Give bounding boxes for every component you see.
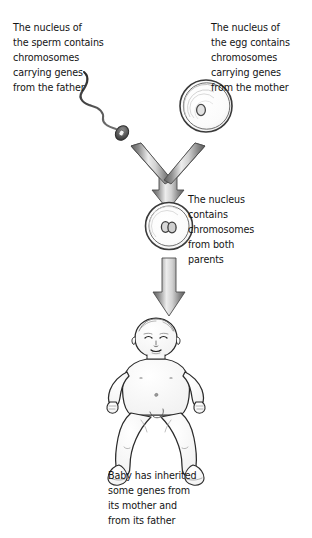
egg-caption: The nucleus of the egg contains chromoso… [211,20,311,95]
fertilized-cell-caption: The nucleus contains chromosomes from bo… [188,192,288,267]
fertilized-cell-illustration [146,203,193,250]
inheritance-diagram: The nucleus of the sperm contains chromo… [0,0,312,538]
down-arrow [153,258,185,316]
baby-illustration [107,318,205,485]
sperm-caption: The nucleus of the sperm contains chromo… [13,20,138,95]
baby-caption: Baby has inherited some genes from its m… [108,468,228,528]
